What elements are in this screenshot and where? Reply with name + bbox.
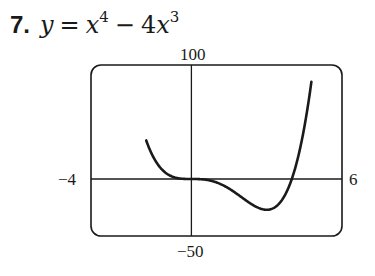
graph [0, 0, 375, 276]
viewing-window-frame [91, 65, 342, 236]
function-curve [146, 82, 311, 210]
